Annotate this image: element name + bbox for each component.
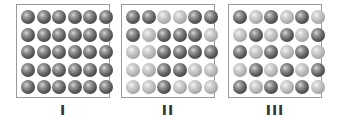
light-sphere	[249, 45, 263, 59]
light-sphere	[188, 63, 202, 77]
light-sphere	[204, 80, 218, 94]
dark-sphere	[37, 45, 51, 59]
dark-sphere	[68, 28, 82, 42]
light-sphere	[264, 28, 278, 42]
light-sphere	[173, 10, 187, 24]
dark-sphere	[311, 63, 325, 77]
light-sphere	[233, 28, 247, 42]
dark-sphere	[233, 80, 247, 94]
dark-sphere	[52, 80, 66, 94]
panel-label-ii: II	[121, 102, 215, 118]
dark-sphere	[204, 10, 218, 24]
dark-sphere	[52, 63, 66, 77]
light-sphere	[311, 80, 325, 94]
dark-sphere	[264, 45, 278, 59]
light-sphere	[188, 80, 202, 94]
light-sphere	[264, 63, 278, 77]
dark-sphere	[68, 10, 82, 24]
dark-sphere	[83, 28, 97, 42]
dark-sphere	[188, 45, 202, 59]
dark-sphere	[280, 28, 294, 42]
dark-sphere	[233, 45, 247, 59]
dark-sphere	[157, 45, 171, 59]
light-sphere	[280, 10, 294, 24]
dark-sphere	[37, 80, 51, 94]
dark-sphere	[83, 45, 97, 59]
dark-sphere	[83, 10, 97, 24]
light-sphere	[142, 45, 156, 59]
dark-sphere	[188, 10, 202, 24]
dark-sphere	[21, 80, 35, 94]
dark-sphere	[295, 45, 309, 59]
dark-sphere	[68, 80, 82, 94]
dark-sphere	[68, 63, 82, 77]
dark-sphere	[21, 63, 35, 77]
light-sphere	[142, 28, 156, 42]
dark-sphere	[37, 63, 51, 77]
dark-sphere	[99, 80, 113, 94]
panel-i	[16, 4, 110, 98]
sphere-grid-ii	[126, 10, 218, 94]
dark-sphere	[173, 63, 187, 77]
dark-sphere	[249, 28, 263, 42]
light-sphere	[295, 63, 309, 77]
panel-label-i: I	[16, 102, 110, 118]
dark-sphere	[52, 45, 66, 59]
light-sphere	[249, 10, 263, 24]
light-sphere	[157, 10, 171, 24]
dark-sphere	[142, 10, 156, 24]
dark-sphere	[280, 63, 294, 77]
dark-sphere	[52, 10, 66, 24]
dark-sphere	[157, 80, 171, 94]
light-sphere	[142, 80, 156, 94]
panel-iii	[228, 4, 322, 98]
light-sphere	[126, 80, 140, 94]
dark-sphere	[83, 63, 97, 77]
dark-sphere	[295, 10, 309, 24]
light-sphere	[126, 45, 140, 59]
dark-sphere	[157, 28, 171, 42]
dark-sphere	[173, 45, 187, 59]
light-sphere	[126, 63, 140, 77]
dark-sphere	[264, 80, 278, 94]
light-sphere	[295, 28, 309, 42]
dark-sphere	[21, 45, 35, 59]
dark-sphere	[37, 10, 51, 24]
dark-sphere	[295, 80, 309, 94]
dark-sphere	[188, 28, 202, 42]
panel-ii	[121, 4, 215, 98]
sphere-grid-iii	[233, 10, 325, 94]
dark-sphere	[126, 28, 140, 42]
dark-sphere	[157, 63, 171, 77]
light-sphere	[204, 63, 218, 77]
panel-label-iii: III	[228, 102, 322, 118]
dark-sphere	[83, 80, 97, 94]
sphere-grid-i	[21, 10, 113, 94]
light-sphere	[249, 80, 263, 94]
dark-sphere	[264, 10, 278, 24]
dark-sphere	[37, 28, 51, 42]
dark-sphere	[21, 28, 35, 42]
dark-sphere	[311, 28, 325, 42]
dark-sphere	[233, 10, 247, 24]
light-sphere	[280, 45, 294, 59]
dark-sphere	[99, 63, 113, 77]
dark-sphere	[21, 10, 35, 24]
light-sphere	[142, 63, 156, 77]
dark-sphere	[99, 45, 113, 59]
dark-sphere	[204, 45, 218, 59]
dark-sphere	[99, 28, 113, 42]
light-sphere	[280, 80, 294, 94]
dark-sphere	[173, 28, 187, 42]
light-sphere	[311, 10, 325, 24]
dark-sphere	[126, 10, 140, 24]
dark-sphere	[52, 28, 66, 42]
dark-sphere	[68, 45, 82, 59]
light-sphere	[204, 28, 218, 42]
light-sphere	[173, 80, 187, 94]
dark-sphere	[99, 10, 113, 24]
light-sphere	[233, 63, 247, 77]
light-sphere	[311, 45, 325, 59]
dark-sphere	[249, 63, 263, 77]
